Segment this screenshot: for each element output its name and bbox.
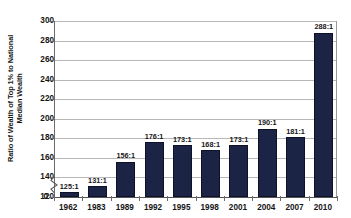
bar <box>286 137 305 197</box>
x-axis-tick-mark <box>54 196 55 201</box>
x-axis-tick-mark <box>309 196 310 201</box>
x-axis-tick-mark <box>280 196 281 201</box>
y-axis-tick-label: 220 <box>14 95 54 103</box>
bar-value-label: 181:1 <box>276 128 316 136</box>
y-axis-tick-label: 180 <box>14 134 54 142</box>
x-axis-tick-mark <box>337 196 338 201</box>
bar <box>314 33 333 197</box>
bar <box>145 142 164 197</box>
x-axis-tick-mark <box>196 196 197 201</box>
bar-value-label: 156:1 <box>106 152 146 160</box>
axis-break-icon <box>48 176 61 193</box>
gridline <box>55 80 336 81</box>
y-axis-zero-label: 0 <box>34 192 48 201</box>
x-axis-tick-mark <box>252 196 253 201</box>
y-axis-tick-label: 280 <box>14 37 54 45</box>
bar <box>173 145 192 197</box>
gridline <box>55 119 336 120</box>
bar <box>258 129 277 197</box>
y-axis-tick-label: 240 <box>14 76 54 84</box>
x-axis-tick-mark <box>224 196 225 201</box>
y-axis-tick-label: 300 <box>14 17 54 25</box>
bar <box>201 150 220 197</box>
bar <box>229 145 248 197</box>
x-axis-tick-mark <box>111 196 112 201</box>
bar-value-label: 173:1 <box>219 136 259 144</box>
y-axis-tick-label: 160 <box>14 154 54 162</box>
y-axis-tick-label: 200 <box>14 115 54 123</box>
x-axis-tick-label: 2010 <box>303 203 343 212</box>
x-axis-tick-mark <box>167 196 168 201</box>
bar-chart: Ratio of Wealth of Top 1% to National Me… <box>0 0 351 218</box>
gridline <box>55 60 336 61</box>
plot-area: 125:1131:1156:1176:1173:1168:1173:1190:1… <box>54 21 337 197</box>
x-axis-tick-mark <box>82 196 83 201</box>
bar-value-label: 131:1 <box>77 177 117 185</box>
gridline <box>55 41 336 42</box>
gridline <box>55 21 336 22</box>
y-axis-tick-label: 260 <box>14 56 54 64</box>
bar <box>116 162 135 197</box>
bar-value-label: 190:1 <box>247 119 287 127</box>
gridline <box>55 99 336 100</box>
x-axis-tick-mark <box>139 196 140 201</box>
bar-value-label: 288:1 <box>304 23 344 31</box>
bar <box>88 186 107 197</box>
